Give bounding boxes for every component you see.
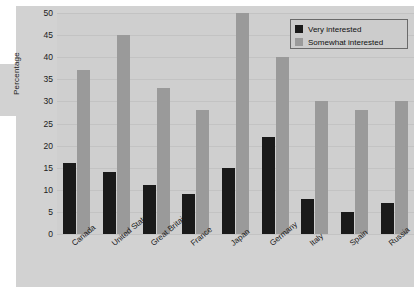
legend-swatch-icon-very-interested xyxy=(295,25,303,33)
legend-label-very-interested: Very interested xyxy=(308,25,361,34)
legend-label-somewhat-interested: Somewhat interested xyxy=(308,38,383,47)
bar xyxy=(355,110,368,234)
legend-swatch-icon-somewhat-interested xyxy=(295,38,303,46)
bar xyxy=(341,212,354,234)
gridline xyxy=(57,234,414,235)
chart-figure: Percentage 05101520253035404550 CanadaUn… xyxy=(0,0,420,303)
bar xyxy=(222,168,235,234)
bar xyxy=(301,199,314,234)
bar xyxy=(143,185,156,234)
bar xyxy=(103,172,116,234)
bar xyxy=(117,35,130,234)
legend-item-somewhat-interested: Somewhat interested xyxy=(295,36,403,48)
bar xyxy=(157,88,170,234)
bar xyxy=(276,57,289,234)
bar xyxy=(182,194,195,234)
bar xyxy=(196,110,209,234)
bar xyxy=(262,137,275,234)
legend-item-very-interested: Very interested xyxy=(295,23,403,35)
bar xyxy=(236,13,249,234)
y-axis-title: Percentage xyxy=(12,0,21,95)
bar xyxy=(381,203,394,234)
chart-legend: Very interested Somewhat interested xyxy=(290,19,408,49)
bar xyxy=(77,70,90,234)
bar xyxy=(395,101,408,234)
bar xyxy=(315,101,328,234)
bar xyxy=(63,163,76,234)
